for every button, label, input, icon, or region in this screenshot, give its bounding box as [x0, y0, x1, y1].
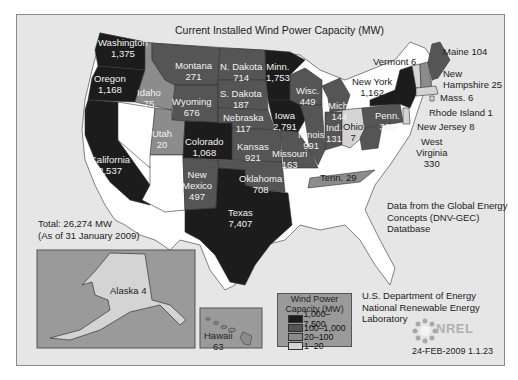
label-texas: Texas7,407 — [228, 207, 253, 229]
label-idaho: Idaho75 — [137, 87, 161, 109]
label-indiana: Ind.131 — [326, 122, 342, 144]
label-new-mexico: NewMexico497 — [182, 169, 212, 202]
total-note: Total: 26,274 MW(As of 31 January 2009) — [38, 218, 139, 241]
nrel-sun-icon — [412, 318, 438, 344]
label-california: California2,537 — [90, 154, 130, 176]
label-oregon: Oregon1,168 — [94, 73, 126, 95]
label-vermont: Vermont 6 — [373, 56, 416, 67]
label-iowa: Iowa2,791 — [273, 110, 297, 132]
state-new-jersey[interactable] — [403, 108, 410, 124]
label-hawaii: Hawaii63 — [204, 330, 233, 352]
label-maine: Maine 104 — [443, 46, 487, 57]
label-alaska: Alaska 4 — [110, 285, 146, 296]
legend-item: 1–20 — [288, 341, 351, 350]
legend: Wind PowerCapacity (MW) 1,000–7,500 100–… — [277, 293, 352, 347]
label-colorado: Colorado1,068 — [185, 136, 224, 158]
label-minnesota: Minn.1,753 — [266, 61, 290, 83]
label-south-dakota: S. Dakota187 — [220, 88, 262, 110]
label-illinois: Illinois991 — [298, 129, 324, 151]
legend-swatch — [288, 315, 303, 323]
state-massachusetts[interactable] — [416, 86, 438, 96]
label-utah: Utah20 — [152, 128, 172, 150]
source-note: Data from the Global EnergyConcepts (DNV… — [387, 200, 507, 235]
label-nebraska: Nebraska117 — [223, 112, 264, 134]
legend-swatch — [288, 324, 303, 332]
label-ohio: Ohio7 — [343, 121, 363, 143]
label-michigan: Mich.144 — [328, 100, 351, 122]
label-montana: Montana271 — [175, 60, 212, 82]
label-north-dakota: N. Dakota714 — [220, 61, 262, 83]
nrel-logo: NREL — [436, 321, 473, 336]
label-kansas: Kansas921 — [237, 141, 269, 163]
label-pennsylvania: Penn.366 — [375, 110, 400, 132]
legend-swatch — [288, 342, 303, 350]
label-washington: Washington1,375 — [98, 37, 148, 59]
label-new-jersey: New Jersey 8 — [417, 121, 475, 132]
date-stamp: 24-FEB-2009 1.1.23 — [412, 346, 493, 358]
label-tennessee: Tenn. 29 — [320, 172, 356, 183]
label-new-hampshire: NewHampshire 25 — [443, 68, 502, 90]
label-west-virginia: WestVirginia330 — [416, 136, 448, 169]
label-oklahoma: Oklahoma708 — [239, 173, 282, 195]
label-massachusetts: Mass. 6 — [440, 92, 473, 103]
label-missouri: Missouri163 — [272, 148, 307, 170]
label-rhode-island: Rhode Island 1 — [429, 107, 493, 118]
legend-swatch — [288, 333, 303, 341]
map-title: Current Installed Wind Power Capacity (M… — [175, 24, 384, 36]
label-wyoming: Wyoming676 — [172, 96, 212, 118]
state-rhode-island[interactable] — [430, 96, 434, 101]
label-wisconsin: Wisc.449 — [296, 85, 319, 107]
label-new-york: New York1,162 — [352, 76, 392, 98]
